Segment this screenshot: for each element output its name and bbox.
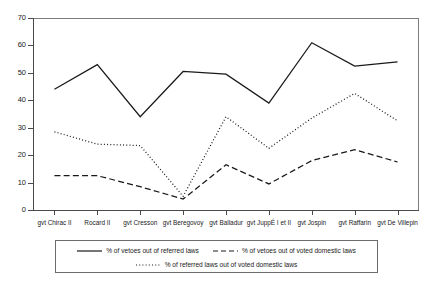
legend-label-referred-of-voted: % of referred laws out of voted domestic… <box>165 261 298 269</box>
line-chart-figure: 010203040506070 gvt Chirac IIRocard IIgv… <box>0 0 434 286</box>
legend-label-vetoes-of-voted: % of vetoes out of voted domestic laws <box>242 247 356 255</box>
legend-entry-solid: % of vetoes out of referred laws <box>77 247 199 255</box>
series-line-1 <box>54 150 397 199</box>
legend-row-1: % of vetoes out of referred laws % of ve… <box>56 244 377 258</box>
legend-entry-dashed: % of vetoes out of voted domestic laws <box>213 247 356 255</box>
series-line-0 <box>54 43 397 117</box>
legend-dotted-line-icon <box>136 261 161 269</box>
legend-dashed-line-icon <box>213 247 238 255</box>
series-line-2 <box>54 93 397 196</box>
legend-solid-line-icon <box>77 247 102 255</box>
legend-label-vetoes-of-referred: % of vetoes out of referred laws <box>106 247 199 255</box>
legend-row-2: % of referred laws out of voted domestic… <box>56 258 377 272</box>
legend-entry-dotted: % of referred laws out of voted domestic… <box>136 261 298 269</box>
chart-legend: % of vetoes out of referred laws % of ve… <box>55 240 378 273</box>
